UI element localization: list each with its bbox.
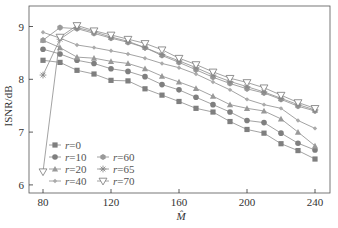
square-marker-icon xyxy=(108,78,113,83)
triangle-up-marker-icon xyxy=(193,85,199,91)
series-r-0 xyxy=(40,58,317,162)
circle-marker-icon xyxy=(261,120,267,126)
square-marker-icon xyxy=(193,106,198,111)
square-marker-icon xyxy=(261,131,266,136)
square-marker-icon xyxy=(244,127,249,132)
square-marker-icon xyxy=(159,93,164,98)
legend-item-r-0: r=0 xyxy=(49,139,81,151)
y-tick-label: 8 xyxy=(19,73,25,85)
x-axis: 80120160200240 xyxy=(38,189,324,208)
hexagon-marker-icon xyxy=(57,24,62,30)
circle-marker-icon xyxy=(125,69,131,75)
legend-label: r=65 xyxy=(113,163,135,175)
square-marker-icon xyxy=(142,86,147,91)
square-marker-icon xyxy=(40,58,45,63)
square-marker-icon xyxy=(312,156,317,161)
legend-item-r-10: r=10 xyxy=(49,151,87,163)
square-marker-icon xyxy=(210,109,215,114)
legend: r=0r=10r=20r=40r=60r=65r=70 xyxy=(49,139,135,187)
circle-marker-icon xyxy=(40,46,46,52)
legend-item-r-65: r=65 xyxy=(97,163,135,175)
circle-marker-icon xyxy=(227,109,233,115)
series-line xyxy=(43,60,315,159)
triangle-down-marker-icon xyxy=(99,178,107,185)
star-marker-icon xyxy=(100,166,107,173)
diamond-marker-icon xyxy=(228,88,232,92)
legend-item-r-70: r=70 xyxy=(97,175,135,187)
circle-marker-icon xyxy=(91,61,97,67)
circle-marker-icon xyxy=(108,66,114,72)
square-marker-icon xyxy=(176,99,181,104)
diamond-marker-icon xyxy=(75,43,79,47)
y-axis: 6789 xyxy=(19,21,34,191)
legend-item-r-60: r=60 xyxy=(97,151,135,163)
square-marker-icon xyxy=(125,78,130,83)
circle-marker-icon xyxy=(278,130,284,136)
legend-label: r=40 xyxy=(65,175,87,187)
diamond-marker-icon xyxy=(53,179,57,183)
square-marker-icon xyxy=(57,60,62,65)
circle-marker-icon xyxy=(159,82,165,88)
triangle-up-marker-icon xyxy=(57,45,63,51)
legend-item-r-40: r=40 xyxy=(49,175,87,187)
square-marker-icon xyxy=(91,71,96,76)
square-marker-icon xyxy=(227,119,232,124)
triangle-up-marker-icon xyxy=(227,102,233,108)
x-tick-label: 200 xyxy=(239,196,256,208)
star-marker-icon xyxy=(40,72,47,79)
y-axis-label: ISNR/dB xyxy=(2,86,14,127)
triangle-up-marker-icon xyxy=(210,93,216,99)
legend-label: r=70 xyxy=(113,175,135,187)
circle-marker-icon xyxy=(295,140,301,146)
diamond-marker-icon xyxy=(160,61,164,65)
y-tick-label: 7 xyxy=(19,126,25,138)
x-tick-label: 80 xyxy=(38,196,50,208)
triangle-up-marker-icon xyxy=(176,79,182,85)
square-marker-icon xyxy=(295,148,300,153)
x-axis-label: M̂ xyxy=(175,210,186,222)
diamond-marker-icon xyxy=(313,126,317,130)
diamond-marker-icon xyxy=(92,45,96,49)
diamond-marker-icon xyxy=(211,80,215,84)
y-tick-label: 9 xyxy=(19,21,25,33)
triangle-up-marker-icon xyxy=(159,73,165,79)
x-tick-label: 240 xyxy=(307,196,324,208)
y-tick-label: 6 xyxy=(19,179,25,191)
series-line xyxy=(43,25,315,171)
square-marker-icon xyxy=(52,142,57,147)
diamond-marker-icon xyxy=(245,97,249,101)
triangle-down-marker-icon xyxy=(260,85,268,92)
legend-label: r=10 xyxy=(65,151,87,163)
legend-label: r=0 xyxy=(65,139,81,151)
diamond-marker-icon xyxy=(177,65,181,69)
x-tick-label: 120 xyxy=(103,196,120,208)
triangle-up-marker-icon xyxy=(278,116,284,122)
circle-marker-icon xyxy=(244,118,250,124)
isnr-line-chart: 6789 80120160200240 M̂ ISNR/dB r=0r=10r=… xyxy=(0,0,338,228)
circle-marker-icon xyxy=(176,87,182,93)
circle-marker-icon xyxy=(52,154,58,160)
diamond-marker-icon xyxy=(126,52,130,56)
hexagon-marker-icon xyxy=(100,154,105,160)
triangle-down-marker-icon xyxy=(39,169,47,176)
diamond-marker-icon xyxy=(41,30,45,34)
diamond-marker-icon xyxy=(143,56,147,60)
square-marker-icon xyxy=(278,141,283,146)
diamond-marker-icon xyxy=(262,102,266,106)
square-marker-icon xyxy=(74,68,79,73)
circle-marker-icon xyxy=(142,74,148,80)
legend-label: r=60 xyxy=(113,151,135,163)
diamond-marker-icon xyxy=(109,49,113,53)
circle-marker-icon xyxy=(193,94,199,100)
circle-marker-icon xyxy=(210,102,216,108)
triangle-up-marker-icon xyxy=(295,129,301,135)
legend-item-r-20: r=20 xyxy=(49,163,87,175)
x-tick-label: 160 xyxy=(171,196,188,208)
legend-label: r=20 xyxy=(65,163,87,175)
triangle-down-marker-icon xyxy=(158,47,166,54)
